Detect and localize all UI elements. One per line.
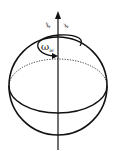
axis-arrowhead-icon: [55, 11, 61, 19]
axis-label-ze: ze: [44, 22, 51, 29]
axis-label-zi: zi: [62, 23, 69, 29]
rotation-arrowhead-icon: [52, 53, 58, 59]
svg-text:zi: zi: [62, 23, 69, 29]
omega-label: ωie: [41, 41, 54, 53]
sphere-diagram: ωie ze zi: [0, 0, 115, 151]
svg-text:ze: ze: [44, 22, 51, 29]
